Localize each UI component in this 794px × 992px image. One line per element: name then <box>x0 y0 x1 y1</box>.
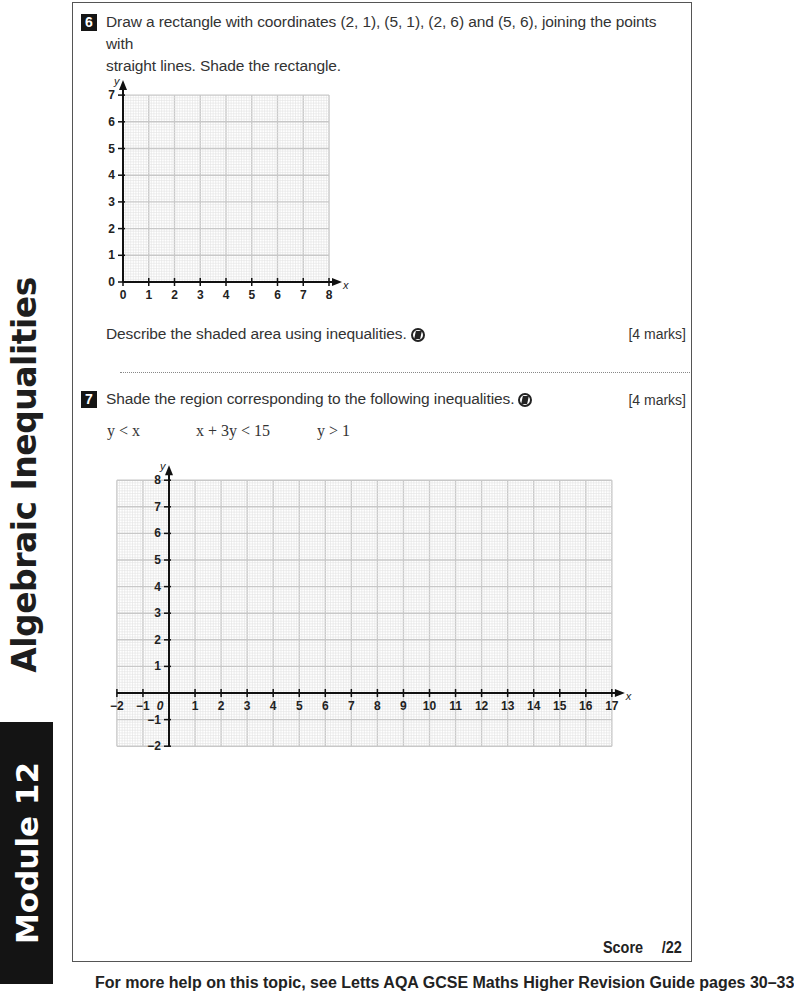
svg-text:−1: −1 <box>147 713 161 727</box>
module-label: Module 12 <box>7 726 47 981</box>
footer-reference: For more help on this topic, see Letts A… <box>95 974 794 992</box>
svg-text:−2: −2 <box>110 699 124 713</box>
svg-text:10: 10 <box>423 699 437 713</box>
svg-text:−2: −2 <box>147 739 161 753</box>
svg-text:6: 6 <box>322 699 329 713</box>
svg-text:13: 13 <box>501 699 515 713</box>
svg-text:3: 3 <box>154 606 161 620</box>
svg-text:11: 11 <box>449 699 462 713</box>
svg-text:9: 9 <box>400 699 407 713</box>
score-label: Score <box>603 938 643 957</box>
svg-text:7: 7 <box>348 699 355 713</box>
svg-text:1: 1 <box>154 659 161 673</box>
svg-text:2: 2 <box>154 633 161 647</box>
svg-text:y: y <box>159 460 167 472</box>
svg-text:3: 3 <box>244 699 251 713</box>
svg-text:12: 12 <box>475 699 489 713</box>
svg-text:0: 0 <box>157 699 164 713</box>
svg-text:6: 6 <box>154 526 161 540</box>
svg-text:14: 14 <box>527 699 541 713</box>
graph-question-7[interactable]: yx−2−112345678910111213141516170−2−11234… <box>0 0 696 780</box>
svg-text:7: 7 <box>154 500 161 514</box>
svg-text:8: 8 <box>154 473 161 487</box>
svg-text:15: 15 <box>553 699 567 713</box>
svg-text:17: 17 <box>605 699 619 713</box>
svg-text:4: 4 <box>270 699 277 713</box>
svg-text:8: 8 <box>374 699 381 713</box>
svg-text:5: 5 <box>296 699 303 713</box>
svg-text:1: 1 <box>192 699 199 713</box>
svg-text:−1: −1 <box>136 699 150 713</box>
score-total: /22 <box>662 938 682 957</box>
score-box: Score/22 <box>603 938 682 958</box>
svg-text:5: 5 <box>154 553 161 567</box>
svg-text:16: 16 <box>579 699 593 713</box>
svg-text:2: 2 <box>218 699 225 713</box>
module-tab: Module 12 <box>0 722 53 984</box>
svg-text:x: x <box>625 690 632 702</box>
chapter-title: Algebraic Inequalities <box>5 265 45 685</box>
svg-text:4: 4 <box>154 580 161 594</box>
